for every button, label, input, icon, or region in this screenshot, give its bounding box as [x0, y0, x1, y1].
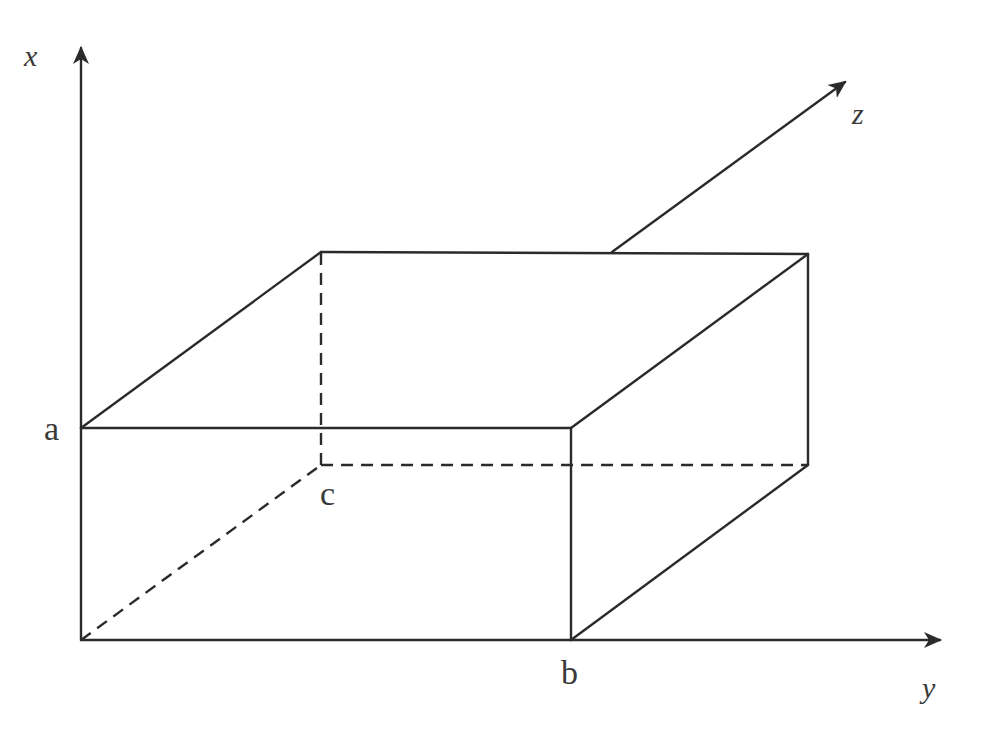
hidden-edge-origin-to-c [81, 465, 321, 640]
edge-b-to-back-bottom-right [571, 465, 808, 640]
edge-a-to-back-top-left [81, 252, 321, 428]
z-axis-label: z [851, 97, 864, 130]
point-a-label: a [44, 410, 59, 447]
y-axis-label: y [919, 671, 936, 704]
edge-back-top [321, 252, 808, 254]
point-c-label: c [320, 475, 335, 512]
point-b-label: b [561, 654, 578, 691]
edge-front-top-right-to-back [571, 254, 808, 428]
x-axis-label: x [23, 39, 38, 72]
z-axis [612, 82, 845, 252]
box-coordinate-diagram: x z y a b c [0, 0, 985, 740]
